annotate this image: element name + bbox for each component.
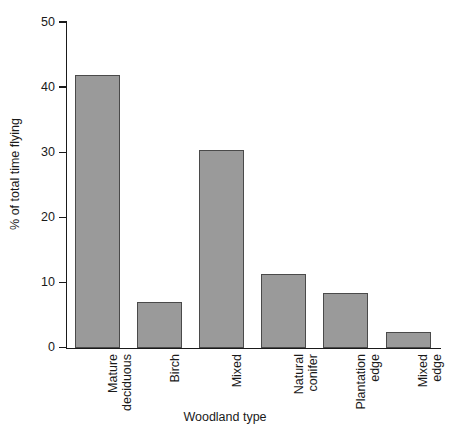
x-axis-tick-label-line2: edge	[430, 354, 444, 387]
x-axis-tick-label: Birch	[168, 354, 182, 382]
y-axis-title: % of total time flying	[0, 0, 30, 348]
plot-area	[66, 22, 440, 348]
x-axis-tick-label-line1: Plantation	[354, 354, 368, 410]
y-axis-tick-label: 50	[0, 16, 55, 29]
x-axis-tick-label-line2: conifer	[306, 354, 320, 394]
x-axis-tick-label: Maturedeciduous	[106, 354, 134, 411]
x-axis-title: Woodland type	[0, 410, 450, 424]
x-axis-tick-label-line2: deciduous	[120, 354, 134, 411]
x-axis-tick-label: Mixed	[230, 354, 244, 387]
x-axis-tick-label: Naturalconifer	[292, 354, 320, 394]
x-axis-tick-label-line1: Mature	[106, 354, 120, 393]
y-axis-tick-label: 20	[0, 211, 55, 224]
x-axis-tick-label: Mixededge	[416, 354, 444, 387]
bar-chart-figure: % of total time flying 01020304050 Matur…	[0, 0, 450, 439]
bar	[323, 293, 368, 348]
y-axis-tick-label: 10	[0, 276, 55, 289]
x-axis-tick-label-line1: Birch	[168, 354, 182, 382]
bar	[386, 332, 431, 348]
x-axis-tick-label-line2: edge	[368, 354, 382, 410]
bar	[137, 302, 182, 348]
x-axis-tick-label-line1: Natural	[292, 354, 306, 394]
x-axis-tick-label-line1: Mixed	[230, 354, 244, 387]
y-axis-tick-label: 0	[0, 341, 55, 354]
bar	[199, 150, 244, 348]
bar-series	[66, 22, 440, 348]
y-axis-tick-label: 30	[0, 146, 55, 159]
x-axis-tick-label-line1: Mixed	[416, 354, 430, 387]
bar	[261, 274, 306, 348]
y-axis-tick-label: 40	[0, 81, 55, 94]
bar	[75, 75, 120, 349]
x-axis-tick-label: Plantationedge	[354, 354, 382, 410]
